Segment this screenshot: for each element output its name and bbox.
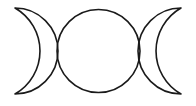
triple-moon-diagram: triple moon Waxing crescent Full moon Wa… <box>0 0 196 106</box>
full-moon-shape <box>57 10 140 93</box>
waxing-crescent-shape <box>15 8 58 94</box>
triple-moon-icon <box>0 0 196 106</box>
waning-crescent-shape <box>138 8 181 94</box>
